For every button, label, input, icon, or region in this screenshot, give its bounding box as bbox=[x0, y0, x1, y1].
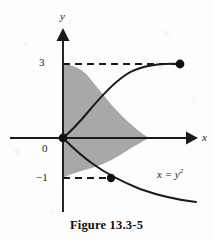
curve-equation-label: x = y2 bbox=[157, 169, 183, 180]
shaded-region bbox=[63, 64, 149, 178]
y-axis-arrowhead bbox=[57, 28, 70, 41]
figure-caption: Figure 13.3-5 bbox=[0, 219, 213, 233]
tick-label-y-neg1: −1 bbox=[36, 172, 48, 183]
figure-container: y x 3 0 −1 x = y2 Figure 13.3-5 bbox=[0, 0, 213, 240]
plot-area bbox=[0, 0, 213, 240]
y-axis-label: y bbox=[60, 11, 65, 22]
x-axis-arrowhead bbox=[186, 132, 198, 145]
origin-label: 0 bbox=[42, 143, 48, 154]
curve-equation-lhs: x = y bbox=[157, 168, 180, 180]
point-upper-endpoint bbox=[176, 60, 185, 69]
point-lower-endpoint bbox=[107, 174, 115, 182]
x-axis-label: x bbox=[202, 132, 207, 143]
point-origin bbox=[59, 134, 68, 143]
tick-label-y-3: 3 bbox=[39, 57, 45, 68]
curve-equation-exponent: 2 bbox=[180, 167, 184, 175]
